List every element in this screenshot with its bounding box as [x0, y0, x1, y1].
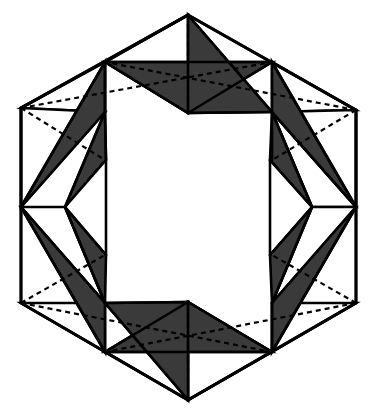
figure-canvas: Hexagonal star folding net Regular hexag…	[0, 0, 373, 417]
edge-line-25	[105, 302, 188, 303]
edge-line-11	[188, 112, 272, 113]
hexagon-star-diagram: Hexagonal star folding net Regular hexag…	[0, 0, 373, 417]
edge-line-34	[105, 112, 106, 160]
